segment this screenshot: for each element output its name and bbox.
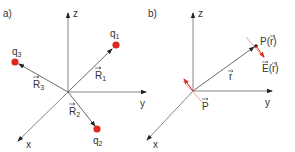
electrostatics-diagram: a) z y x q1 q2 q3 R1 R2	[0, 0, 295, 152]
y-axis-label-b: y	[265, 97, 270, 108]
dipole-moment-arrow	[184, 79, 193, 91]
charge-q2	[93, 125, 100, 132]
svg-text:P: P	[202, 101, 209, 112]
position-vector-r	[193, 47, 254, 91]
panel-a: a) z y x q1 q2 q3 R1 R2	[3, 8, 146, 150]
vector-r3-label: R3	[33, 76, 44, 91]
charge-q1-label: q1	[110, 28, 120, 40]
panel-a-label: a)	[3, 8, 12, 19]
charge-q3	[11, 58, 18, 65]
svg-text:R1: R1	[95, 70, 106, 82]
svg-text:r: r	[229, 71, 233, 82]
svg-text:P(r): P(r)	[260, 36, 277, 47]
point-p-label: P(r)	[260, 35, 277, 47]
svg-text:R2: R2	[69, 106, 80, 118]
z-axis-label-a: z	[73, 8, 78, 19]
vector-r1-label: R1	[95, 67, 106, 82]
charge-q1	[112, 41, 119, 48]
field-e-label: E(r)	[262, 61, 279, 74]
panel-b-label: b)	[148, 8, 157, 19]
x-axis-label-a: x	[26, 139, 31, 150]
svg-text:R3: R3	[33, 79, 44, 91]
dipole-moment-label: P	[202, 98, 209, 112]
position-vector-label: r	[228, 70, 233, 82]
panel-b: b) z y x P(r) E(r) r	[147, 8, 279, 150]
y-axis-label-a: y	[140, 98, 145, 109]
x-axis-label-b: x	[153, 139, 158, 150]
vector-r1	[68, 49, 112, 92]
field-vector-e	[256, 46, 264, 57]
charge-q3-label: q3	[12, 46, 22, 58]
z-axis-label-b: z	[198, 8, 203, 19]
charge-q2-label: q2	[93, 135, 103, 147]
x-axis-b	[147, 91, 193, 140]
x-axis-a	[18, 92, 68, 141]
svg-text:E(r): E(r)	[262, 63, 279, 74]
